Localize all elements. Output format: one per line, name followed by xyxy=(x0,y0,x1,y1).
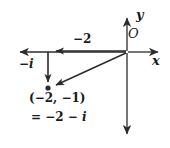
figure-canvas xyxy=(0,0,170,148)
point-expression-label: = −2 − i xyxy=(31,111,87,123)
horizontal-component-label: −2 xyxy=(73,33,91,45)
origin-label: O xyxy=(128,27,139,40)
resultant-vector xyxy=(56,53,126,85)
x-axis-label: x xyxy=(152,54,160,67)
vertical-component-label: −i xyxy=(19,58,34,70)
y-axis-label: y xyxy=(136,8,144,21)
plotted-point xyxy=(45,85,50,90)
imaginary-unit: i xyxy=(29,57,34,71)
complex-plane-figure: y x O −2 −i (−2, −1) = −2 − i xyxy=(0,0,170,148)
point-coordinates-label: (−2, −1) xyxy=(29,92,86,104)
minus-sign: − xyxy=(19,57,29,71)
expression-prefix: = −2 − xyxy=(31,110,82,124)
expression-imaginary-unit: i xyxy=(82,110,87,124)
